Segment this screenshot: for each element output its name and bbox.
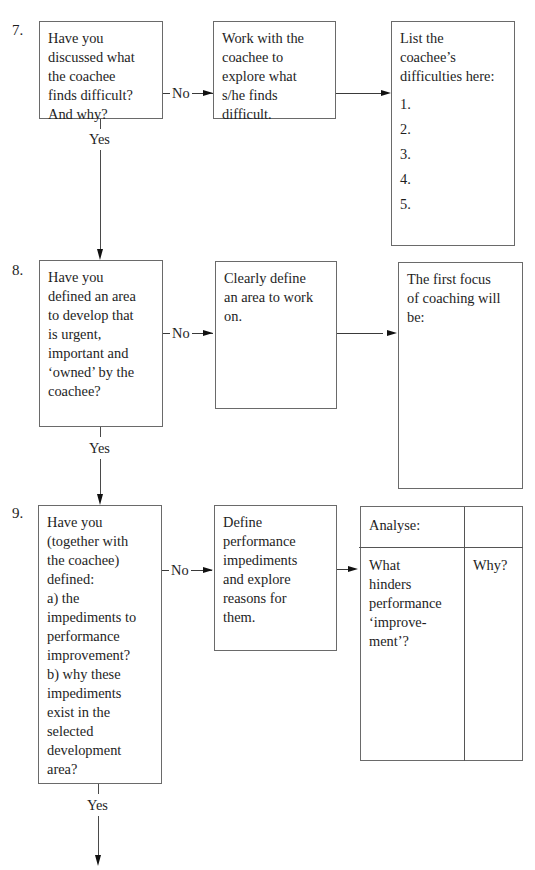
step-7-action-box: Work with the coachee to explore what s/… — [213, 21, 336, 119]
arrow-right-icon — [203, 567, 213, 573]
question-line: selected — [47, 722, 153, 741]
action-line: and explore — [223, 570, 328, 589]
question-line: to develop that — [48, 306, 154, 325]
yes-connector-line — [100, 459, 101, 497]
arrow-right-icon — [381, 90, 391, 96]
cell-line: hinders — [369, 575, 442, 594]
yes-label: Yes — [87, 797, 108, 813]
question-line: Have you — [48, 268, 154, 287]
arrow-right-icon — [387, 330, 397, 336]
difficulty-item[interactable]: 3. — [400, 145, 506, 164]
question-line: Have you — [48, 29, 154, 48]
step-7-number: 7. — [12, 22, 23, 39]
cell-line: ‘improve- — [369, 613, 442, 632]
question-line: a) the — [47, 589, 153, 608]
question-line: development — [47, 741, 153, 760]
action-line: Clearly define — [224, 269, 328, 288]
action-line: explore what — [222, 67, 327, 86]
arrow-down-icon — [95, 855, 101, 866]
question-line: finds difficult? — [48, 86, 154, 105]
table-header-divider — [359, 547, 523, 548]
step-9-action-box: Define performance impediments and explo… — [214, 505, 337, 651]
action-line: Work with the — [222, 29, 327, 48]
difficulty-item[interactable]: 5. — [400, 195, 506, 214]
question-line: performance — [47, 627, 153, 646]
question-line: (together with — [47, 532, 153, 551]
no-label: No — [170, 325, 192, 341]
cell-line: Why? — [473, 556, 507, 575]
question-line: Have you — [47, 513, 153, 532]
cell-line: ment’? — [369, 632, 442, 651]
step-9-question-box: Have you (together with the coachee) def… — [38, 505, 162, 784]
question-line: discussed what — [48, 48, 154, 67]
action-line: reasons for — [223, 589, 328, 608]
no-label: No — [169, 562, 191, 578]
yes-connector-line — [100, 150, 101, 251]
action-line: Define — [223, 513, 328, 532]
step-8-question-box: Have you defined an area to develop that… — [39, 260, 163, 427]
yes-connector-line — [100, 119, 101, 129]
question-line: ‘owned’ by the — [48, 363, 154, 382]
difficulty-item[interactable]: 2. — [400, 120, 506, 139]
no-label: No — [170, 85, 192, 101]
step-7-question-box: Have you discussed what the coachee find… — [39, 21, 163, 119]
table-column-divider — [464, 507, 465, 761]
table-header-analyse: Analyse: — [369, 516, 420, 535]
connector-line — [336, 93, 382, 94]
difficulty-item[interactable]: 1. — [400, 95, 506, 114]
output-heading-line: List the — [400, 29, 506, 48]
connector-line — [337, 333, 383, 334]
action-line: performance — [223, 532, 328, 551]
arrow-right-icon — [203, 90, 213, 96]
question-line: impediments — [47, 684, 153, 703]
question-line: area? — [47, 760, 153, 779]
output-heading-line: be: — [407, 308, 514, 327]
step-8-action-box: Clearly define an area to work on. — [215, 261, 337, 409]
question-line: defined an area — [48, 287, 154, 306]
table-column-why[interactable]: Why? — [473, 556, 507, 575]
yes-connector-line — [100, 427, 101, 437]
question-line: b) why these — [47, 665, 153, 684]
step-8-output-box: The first focus of coaching will be: — [398, 262, 523, 489]
question-line: is urgent, — [48, 325, 154, 344]
table-column-what[interactable]: What hinders performance ‘improve- ment’… — [369, 556, 442, 651]
question-line: coachee? — [48, 382, 154, 401]
question-line: the coachee — [48, 67, 154, 86]
cell-line: performance — [369, 594, 442, 613]
question-line: And why? — [48, 105, 154, 124]
question-line: impediments to — [47, 608, 153, 627]
arrow-right-icon — [203, 330, 213, 336]
yes-label: Yes — [89, 440, 110, 456]
analyse-table: Analyse: What hinders performance ‘impro… — [360, 506, 523, 761]
question-line: important and — [48, 344, 154, 363]
yes-connector-line — [98, 784, 99, 794]
action-line: an area to work — [224, 288, 328, 307]
arrow-right-icon — [348, 566, 358, 572]
output-heading-line: difficulties here: — [400, 67, 506, 86]
action-line: them. — [223, 608, 328, 627]
cell-line: What — [369, 556, 442, 575]
arrow-down-icon — [97, 494, 103, 505]
question-line: exist in the — [47, 703, 153, 722]
yes-connector-line — [98, 816, 99, 856]
action-line: difficult. — [222, 105, 327, 124]
output-heading-line: of coaching will — [407, 289, 514, 308]
question-line: the coachee) — [47, 551, 153, 570]
action-line: impediments — [223, 551, 328, 570]
step-9-number: 9. — [12, 505, 23, 522]
yes-label: Yes — [89, 131, 110, 147]
step-7-output-box: List the coachee’s difficulties here: 1.… — [391, 21, 515, 246]
output-heading-line: The first focus — [407, 270, 514, 289]
action-line: on. — [224, 307, 328, 326]
question-line: improvement? — [47, 646, 153, 665]
action-line: coachee to — [222, 48, 327, 67]
question-line: defined: — [47, 570, 153, 589]
step-8-number: 8. — [12, 262, 23, 279]
difficulty-item[interactable]: 4. — [400, 170, 506, 189]
action-line: s/he finds — [222, 86, 327, 105]
arrow-down-icon — [97, 249, 103, 260]
output-heading-line: coachee’s — [400, 48, 506, 67]
